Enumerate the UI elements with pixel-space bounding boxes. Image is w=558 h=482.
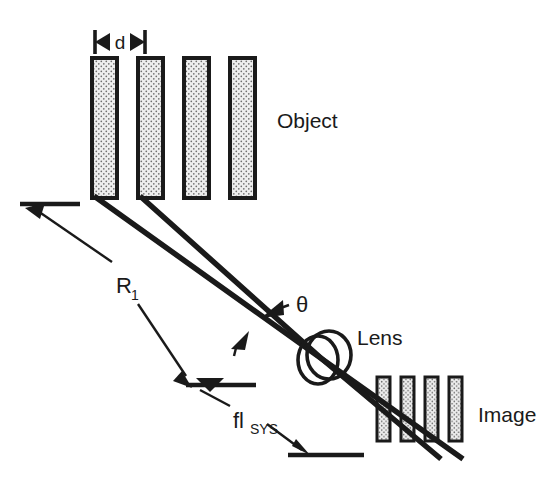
object-bar	[230, 58, 255, 198]
object-label: Object	[277, 109, 338, 132]
r1-leader-upper	[32, 207, 112, 262]
object-bar	[92, 58, 117, 198]
fl-label-subscript: SYS	[250, 421, 278, 437]
spacing-dimension-d: d	[95, 30, 145, 54]
theta-callout: θ	[261, 292, 308, 318]
theta-label: θ	[296, 292, 308, 317]
optical-diagram-svg: d Object Image	[0, 0, 558, 482]
dimension-fl-sys: fl SYS	[200, 390, 364, 455]
r1-leader-lower	[138, 304, 186, 376]
fl-label-main: fl	[233, 408, 244, 433]
image-label: Image	[478, 403, 536, 426]
object-grating	[92, 58, 255, 198]
ray-upper	[94, 196, 463, 459]
fl-leader-upper	[200, 390, 230, 406]
fl-lower-arrow-icon	[292, 439, 310, 455]
r1-label-subscript: 1	[131, 287, 139, 303]
lens-label: Lens	[357, 326, 403, 349]
object-bar	[184, 58, 209, 198]
focal-origin-tick	[186, 378, 256, 392]
ray-bundle	[94, 196, 463, 459]
spacing-label-d: d	[115, 32, 126, 53]
d-left-arrow-icon	[95, 33, 110, 51]
dimension-r1: R 1	[20, 203, 192, 388]
d-right-arrow-icon	[130, 33, 145, 51]
angle-indicator-secondary	[231, 331, 249, 356]
object-bar	[138, 58, 163, 198]
optical-diagram-canvas: d Object Image	[0, 0, 558, 482]
r1-label-main: R	[116, 273, 132, 298]
angle-arrow-icon	[231, 331, 249, 350]
image-bar	[449, 377, 462, 441]
